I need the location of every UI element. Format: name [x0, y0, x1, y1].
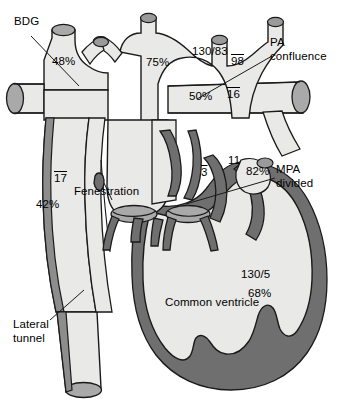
value-svc-saturation: 48% [52, 55, 75, 69]
label-pa-confluence: PA confluence [270, 36, 327, 64]
value-aortic-mean-pressure: 98 [231, 55, 244, 69]
value-tunnel-saturation: 42% [36, 198, 59, 212]
common-ventricle-cavity [143, 176, 312, 360]
left-pulmonary-artery-limb [263, 111, 300, 156]
value-pa-mean-pressure: 16 [227, 88, 240, 102]
value-pulmonary-vein-saturation: 82% [246, 165, 269, 179]
label-fenestration: Fenestration [74, 185, 139, 199]
value-innominate-saturation: 75% [146, 56, 169, 70]
lateral-tunnel-ivc-conduit [57, 312, 102, 398]
innominate-vein-stump [7, 84, 45, 114]
value-atrial-pressure: 11 [228, 154, 240, 168]
value-ventricular-pressure: 130/5 [241, 268, 270, 282]
value-tunnel-mean-pressure: 17 [54, 172, 67, 186]
label-common-ventricle: Common ventricle [165, 296, 259, 310]
cardiac-diagram-figure: .lum { fill:#e9e9e7; stroke:#1a1a1a; str… [0, 0, 342, 415]
label-mpa-divided: MPA divided [276, 163, 313, 191]
value-pa-saturation: 50% [189, 90, 212, 104]
label-bdg: BDG [14, 15, 39, 29]
label-lateral-tunnel: Lateral tunnel [13, 318, 49, 346]
value-aortic-pressure: 130/83 [192, 45, 228, 59]
value-atrial-mean-pressure: 3 [201, 166, 208, 180]
